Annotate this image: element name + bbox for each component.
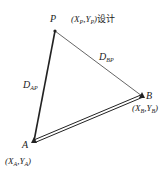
distance-ap-label: DAP — [22, 79, 38, 91]
point-b-label: B — [146, 90, 152, 101]
point-p-coord: (XP,YP)设计 — [71, 13, 115, 25]
edge-a-b — [35, 95, 142, 143]
edge-b-p — [55, 31, 142, 96]
point-p-label: P — [49, 13, 56, 24]
point-b-coord: (XB,YB) — [132, 103, 158, 114]
survey-diagram: P (XP,YP)设计 B (XB,YB) A (XA,YA) DAP DBP — [0, 0, 168, 176]
point-a-label: A — [21, 139, 29, 150]
point-a-marker — [31, 137, 37, 143]
distance-bp-label: DBP — [98, 51, 114, 63]
point-a-coord: (XA,YA) — [5, 156, 31, 167]
point-p-marker — [53, 29, 56, 32]
